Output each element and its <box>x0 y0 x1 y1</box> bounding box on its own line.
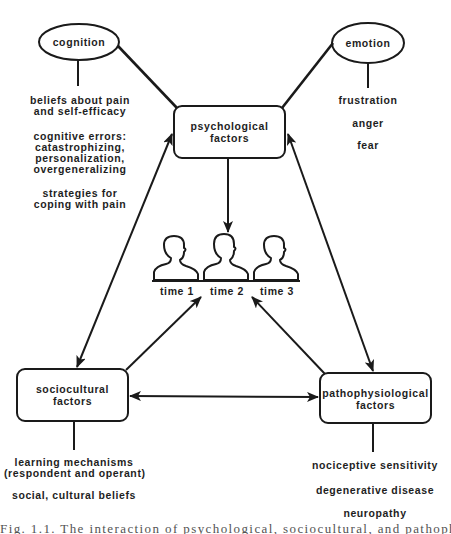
emotion-item-frustration: frustration <box>328 95 408 106</box>
sociocultural-item-beliefs: social, cultural beliefs <box>4 490 144 501</box>
diagram-canvas <box>0 0 451 534</box>
time-label-1: time 1 <box>152 286 202 297</box>
pathophysiological-item-nociceptive: nociceptive sensitivity <box>310 460 440 471</box>
time-label-3: time 3 <box>252 286 302 297</box>
pathophysiological-line1: pathophysiological <box>320 387 431 399</box>
cognition-item-line: and self-efficacy <box>20 106 140 117</box>
pathophysiological-factors-label: pathophysiological factors <box>320 387 431 411</box>
pathophysiological-line2: factors <box>320 399 431 411</box>
cognition-item-line: coping with pain <box>20 199 140 210</box>
psychological-line2: factors <box>174 132 285 144</box>
sociocultural-line2: factors <box>17 395 128 407</box>
emotion-label: emotion <box>338 38 398 49</box>
psychological-line1: psychological <box>174 120 285 132</box>
edge-sociocultural-time <box>126 297 201 370</box>
time-label-2: time 2 <box>202 286 252 297</box>
cognition-label: cognition <box>49 37 109 48</box>
cognition-item-line: overgeneralizing <box>20 164 140 175</box>
person-icon-group <box>152 234 300 281</box>
person-icon-time-2 <box>204 234 248 280</box>
edge-emotion-psychological <box>282 43 333 108</box>
sociocultural-item-line: (respondent and operant) <box>4 468 144 479</box>
sociocultural-factors-label: sociocultural factors <box>17 383 128 407</box>
emotion-item-anger: anger <box>328 118 408 129</box>
figure-caption: Fig. 1.1. The interaction of psychologic… <box>0 521 451 534</box>
pathophysiological-item-degenerative: degenerative disease <box>310 485 440 496</box>
emotion-item-fear: fear <box>328 140 408 151</box>
pathophysiological-item-neuropathy: neuropathy <box>310 508 440 519</box>
sociocultural-line1: sociocultural <box>17 383 128 395</box>
person-icon-time-3 <box>254 236 298 280</box>
edge-sociocultural-pathophysiological <box>130 396 318 397</box>
edge-psychological-pathophysiological <box>288 134 373 371</box>
edge-pathophysiological-time <box>252 297 325 374</box>
psychological-factors-label: psychological factors <box>174 120 285 144</box>
person-icon-time-1 <box>154 236 198 280</box>
